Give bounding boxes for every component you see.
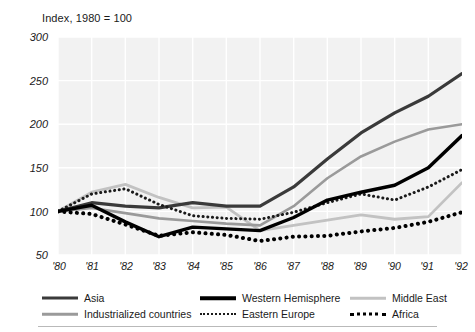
legend-label-middle-east: Middle East bbox=[392, 293, 447, 304]
x-tick-92: '92 bbox=[444, 260, 475, 272]
x-tick-84: '84 bbox=[176, 260, 210, 272]
x-tick-89: '89 bbox=[343, 260, 377, 272]
x-tick-87: '87 bbox=[276, 260, 310, 272]
line-dotted-bold-swatch-icon bbox=[350, 308, 386, 320]
x-tick-80: '80 bbox=[42, 260, 76, 272]
legend-item-middle-east: Middle East bbox=[350, 292, 447, 304]
footer-divider bbox=[38, 326, 437, 327]
x-tick-91: '91 bbox=[410, 260, 444, 272]
line-solid-lightgray-swatch-icon bbox=[350, 292, 386, 304]
legend-item-western-hemisphere: Western Hemisphere bbox=[200, 292, 340, 304]
legend-label-western-hemisphere: Western Hemisphere bbox=[242, 293, 340, 304]
line-solid-black-swatch-icon bbox=[200, 292, 236, 304]
legend-item-africa: Africa bbox=[350, 308, 419, 320]
y-tick-300: 300 bbox=[14, 31, 48, 43]
legend-label-asia: Asia bbox=[84, 293, 104, 304]
x-tick-86: '86 bbox=[243, 260, 277, 272]
legend-item-industrialized-countries: Industrialized countries bbox=[42, 308, 191, 320]
chart-axis-title: Index, 1980 = 100 bbox=[42, 12, 132, 24]
y-tick-250: 250 bbox=[14, 75, 48, 87]
y-tick-150: 150 bbox=[14, 162, 48, 174]
legend-label-industrialized-countries: Industrialized countries bbox=[84, 309, 191, 320]
plot-canvas bbox=[58, 37, 462, 255]
line-solid-gray-swatch-icon bbox=[42, 308, 78, 320]
y-tick-100: 100 bbox=[14, 206, 48, 218]
x-tick-83: '83 bbox=[142, 260, 176, 272]
plot-area bbox=[58, 37, 462, 255]
legend-label-eastern-europe: Eastern Europe bbox=[242, 309, 315, 320]
x-tick-90: '90 bbox=[377, 260, 411, 272]
y-tick-200: 200 bbox=[14, 118, 48, 130]
x-tick-82: '82 bbox=[109, 260, 143, 272]
legend-item-eastern-europe: Eastern Europe bbox=[200, 308, 315, 320]
legend-label-africa: Africa bbox=[392, 309, 419, 320]
line-chart-figure: Index, 1980 = 100 300 250 200 150 100 50… bbox=[0, 0, 475, 332]
x-tick-81: '81 bbox=[75, 260, 109, 272]
line-solid-dark-swatch-icon bbox=[42, 292, 78, 304]
legend-item-asia: Asia bbox=[42, 292, 104, 304]
x-tick-88: '88 bbox=[310, 260, 344, 272]
x-tick-85: '85 bbox=[209, 260, 243, 272]
line-dotted-fine-swatch-icon bbox=[200, 308, 236, 320]
